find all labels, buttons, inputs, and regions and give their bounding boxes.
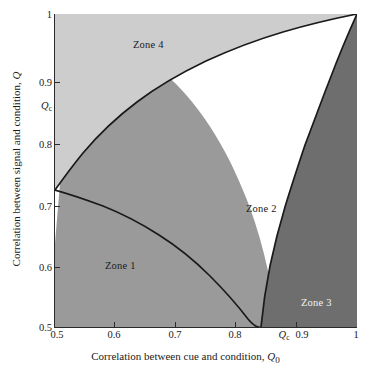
chart-figure: Zone 4 Zone 1 Zone 2 Zone 3 0.5 0.6 0.7 … <box>0 0 371 372</box>
x-axis-title-text: Correlation between cue and condition, <box>91 350 264 362</box>
zone-diagram-svg <box>55 14 357 327</box>
x-axis-title: Correlation between cue and condition, Q… <box>0 350 371 365</box>
x-tick-mark-0.8 <box>235 322 236 327</box>
y-tick-label-qc: Qc <box>41 100 52 111</box>
x-axis-title-var: Q <box>267 350 275 362</box>
x-qc-var: Q <box>279 329 287 340</box>
x-axis-title-sub: 0 <box>275 355 280 365</box>
x-tick-label-1: 0.6 <box>107 329 120 340</box>
region-zone3 <box>261 14 357 327</box>
y-tick-label-1: 1 <box>47 9 52 20</box>
y-tick-mark-0.7 <box>55 206 60 207</box>
x-tick-label-0: 0.5 <box>50 329 63 340</box>
y-axis-title: Correlation between signal and condition… <box>10 14 22 324</box>
x-tick-label-4: 0.9 <box>295 329 308 340</box>
y-qc-var: Q <box>41 100 49 111</box>
x-tick-label-qc: Qc <box>279 329 290 340</box>
x-tick-mark-0.7 <box>175 322 176 327</box>
y-tick-label-0.5: 0.5 <box>39 322 52 333</box>
x-tick-label-3: 0.8 <box>228 329 241 340</box>
x-tick-label-5: 1 <box>353 329 358 340</box>
x-qc-sub: c <box>286 333 289 342</box>
y-tick-label-0.9: 0.9 <box>39 77 52 88</box>
y-tick-label-0.6: 0.6 <box>39 262 52 273</box>
x-tick-label-2: 0.7 <box>168 329 181 340</box>
y-tick-label-0.8: 0.8 <box>39 139 52 150</box>
y-qc-sub: c <box>49 104 52 113</box>
y-axis-title-text: Correlation between signal and condition… <box>10 82 22 266</box>
y-axis-title-var: Q <box>10 72 22 80</box>
plot-area: Zone 4 Zone 1 Zone 2 Zone 3 <box>54 14 357 328</box>
x-tick-mark-0.9 <box>296 322 297 327</box>
y-tick-mark-0.8 <box>55 144 60 145</box>
y-tick-mark-0.6 <box>55 267 60 268</box>
y-tick-mark-0.9 <box>55 82 60 83</box>
y-tick-label-0.7: 0.7 <box>39 201 52 212</box>
x-tick-mark-0.6 <box>114 322 115 327</box>
